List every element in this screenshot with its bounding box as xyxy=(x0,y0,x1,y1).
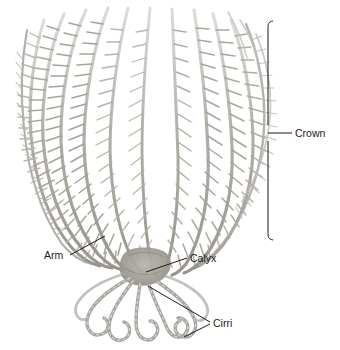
crown-group xyxy=(16,8,277,276)
label-arm: Arm xyxy=(44,249,64,261)
arm-tip xyxy=(228,12,258,60)
arm xyxy=(96,8,145,274)
label-cirri: Cirri xyxy=(213,317,232,329)
arm xyxy=(162,9,191,276)
arm xyxy=(194,20,266,268)
arm xyxy=(69,8,134,272)
cirrus xyxy=(136,284,158,340)
cirrus xyxy=(158,282,196,337)
crinoid-anatomy-figure: Crown Arm Calyx Cirri xyxy=(0,0,340,350)
cirrus xyxy=(149,285,188,337)
crinoid-illustration: Crown Arm Calyx Cirri xyxy=(0,0,340,350)
arm xyxy=(184,14,246,273)
cirrus xyxy=(165,276,208,321)
label-calyx: Calyx xyxy=(190,252,217,264)
label-crown: Crown xyxy=(295,127,326,139)
cirri-group xyxy=(76,274,208,340)
